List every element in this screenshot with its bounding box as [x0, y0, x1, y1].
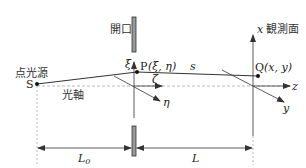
distance-L-label: L	[191, 152, 199, 165]
distance-L0-label: L0	[77, 152, 90, 166]
aperture-bottom-bar	[132, 126, 136, 156]
aperture-top-bar	[132, 17, 136, 52]
optical-axis-label: 光軸	[62, 88, 84, 102]
distance-L0-subscript: 0	[85, 157, 90, 166]
aperture-label: 開口	[110, 23, 132, 36]
aperture-point	[135, 70, 139, 74]
path-length-label: s	[190, 60, 196, 73]
eta-axis-label: η	[163, 96, 170, 109]
y-axis-label: y	[282, 102, 290, 115]
source-point-label: S	[26, 78, 34, 91]
source-point	[35, 82, 39, 86]
xi-axis-label: ξ	[125, 58, 132, 71]
ray-source-to-aperture	[37, 72, 137, 84]
observation-plane-label: 観測面	[266, 22, 299, 36]
diffraction-geometry-diagram: 開口 観測面 x 点光源 S 光軸 ξ P (ξ, η) ζ η s Q (x,…	[0, 0, 306, 168]
observation-point-label: Q	[255, 61, 264, 74]
aperture-point-coords: (ξ, η)	[148, 60, 176, 73]
observation-point-coords: (x, y)	[264, 61, 292, 74]
z-axis-label: z	[291, 80, 298, 93]
observation-point	[256, 74, 260, 78]
zeta-axis-label: ζ	[152, 73, 159, 86]
aperture-point-label: P	[140, 60, 148, 73]
x-axis-label: x	[257, 23, 264, 36]
